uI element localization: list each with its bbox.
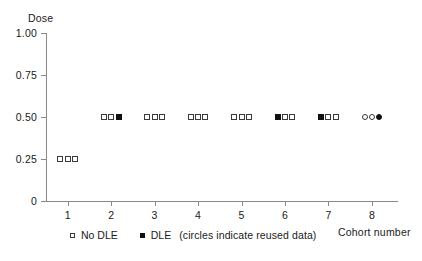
data-point-square-open [246, 114, 252, 120]
data-point-square-open [202, 114, 208, 120]
y-tick-mark [41, 75, 46, 76]
legend-item-no-dle: No DLE [70, 229, 118, 241]
data-point-square-filled [116, 114, 122, 120]
x-tick-mark [111, 201, 112, 206]
x-tick-label: 7 [325, 209, 331, 221]
y-tick-mark [41, 33, 46, 34]
chart-legend: No DLE DLE (circles indicate reused data… [70, 229, 316, 241]
plot-area: 00.250.500.751.0012345678 [46, 33, 398, 202]
data-point-square-open [195, 114, 201, 120]
data-point-square-open [239, 114, 245, 120]
x-axis-line [46, 201, 398, 202]
data-point-square-open [108, 114, 114, 120]
x-tick-label: 3 [152, 209, 158, 221]
data-point-square-open [152, 114, 158, 120]
x-tick-label: 6 [282, 209, 288, 221]
y-tick-label: 0.75 [16, 69, 37, 81]
x-tick-mark [68, 201, 69, 206]
x-axis-title: Cohort number [338, 226, 411, 238]
data-point-circle-open [369, 114, 375, 120]
data-point-square-open [231, 114, 237, 120]
data-point-square-open [159, 114, 165, 120]
dose-cohort-scatter-figure: Dose 00.250.500.751.0012345678 Cohort nu… [0, 0, 422, 261]
legend-item-dle: DLE [140, 229, 171, 241]
y-tick-mark [41, 117, 46, 118]
x-tick-mark [198, 201, 199, 206]
filled-square-icon [140, 233, 145, 238]
y-axis-line [46, 33, 47, 202]
x-tick-label: 1 [65, 209, 71, 221]
x-tick-mark [242, 201, 243, 206]
y-tick-mark [41, 159, 46, 160]
data-point-square-open [65, 156, 71, 162]
y-tick-label: 0.25 [16, 153, 37, 165]
y-tick-mark [41, 201, 46, 202]
legend-label-no-dle: No DLE [81, 229, 118, 241]
open-square-icon [70, 233, 75, 238]
x-tick-label: 5 [239, 209, 245, 221]
x-tick-mark [372, 201, 373, 206]
data-point-square-open [101, 114, 107, 120]
data-point-square-open [72, 156, 78, 162]
data-point-circle-open [362, 114, 368, 120]
y-tick-label: 0 [31, 195, 37, 207]
data-point-square-open [325, 114, 331, 120]
x-tick-mark [285, 201, 286, 206]
data-point-square-open [282, 114, 288, 120]
x-tick-mark [328, 201, 329, 206]
x-tick-label: 4 [195, 209, 201, 221]
data-point-square-open [144, 114, 150, 120]
data-point-square-filled [275, 114, 281, 120]
y-axis-title: Dose [28, 12, 53, 24]
data-point-square-open [289, 114, 295, 120]
legend-label-dle: DLE [151, 229, 171, 241]
x-tick-mark [155, 201, 156, 206]
data-point-square-open [333, 114, 339, 120]
data-point-square-open [57, 156, 63, 162]
x-tick-label: 2 [108, 209, 114, 221]
y-tick-label: 0.50 [16, 111, 37, 123]
data-point-square-open [188, 114, 194, 120]
legend-note: (circles indicate reused data) [179, 229, 316, 241]
data-point-square-filled [318, 114, 324, 120]
x-tick-label: 8 [369, 209, 375, 221]
data-point-circle-filled [376, 114, 382, 120]
y-tick-label: 1.00 [16, 27, 37, 39]
